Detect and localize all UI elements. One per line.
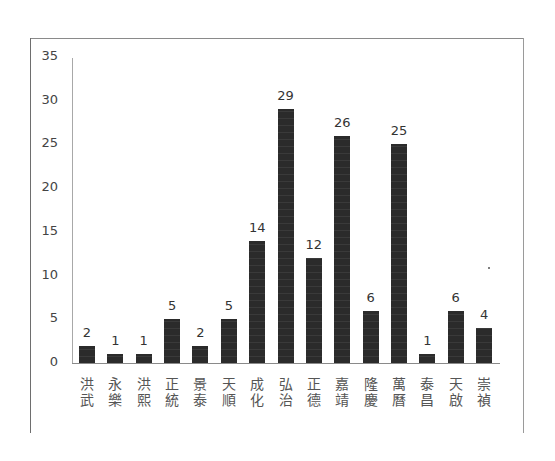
- bar: [334, 136, 350, 363]
- x-category-label-top: 天: [219, 377, 239, 392]
- x-category-label-bottom: 德: [304, 393, 324, 408]
- bar-value-label: 5: [214, 299, 244, 313]
- frame-right-border: [523, 38, 524, 433]
- stray-mark: [488, 267, 490, 269]
- bar: [221, 319, 237, 363]
- bar: [136, 354, 152, 363]
- bar: [107, 354, 123, 363]
- bar: [249, 241, 265, 363]
- bar: [164, 319, 180, 363]
- bar: [363, 311, 379, 363]
- x-category-label-top: 弘: [276, 377, 296, 392]
- bar-value-label: 25: [384, 124, 414, 138]
- x-category-label-top: 天: [446, 377, 466, 392]
- x-category-label-top: 景: [190, 377, 210, 392]
- y-tick-label: 25: [28, 136, 58, 150]
- bar: [192, 346, 208, 363]
- x-axis-line: [72, 363, 500, 364]
- x-category-label-bottom: 樂: [105, 393, 125, 408]
- bar-value-label: 14: [242, 221, 272, 235]
- bar-value-label: 12: [299, 238, 329, 252]
- y-axis-line: [72, 58, 73, 364]
- x-category-label-bottom: 慶: [361, 393, 381, 408]
- y-tick-label: 5: [28, 311, 58, 325]
- y-tick-label: 10: [28, 268, 58, 282]
- bar: [391, 144, 407, 363]
- x-category-label-top: 崇: [474, 377, 494, 392]
- x-category-label-top: 洪: [77, 377, 97, 392]
- bar-value-label: 1: [412, 334, 442, 348]
- x-category-label-bottom: 化: [247, 393, 267, 408]
- x-category-label-top: 嘉: [332, 377, 352, 392]
- x-category-label-bottom: 順: [219, 393, 239, 408]
- bar: [306, 258, 322, 363]
- bar-value-label: 6: [356, 291, 386, 305]
- x-category-label-top: 永: [105, 377, 125, 392]
- y-tick-label: 35: [28, 49, 58, 63]
- x-category-label-top: 正: [162, 377, 182, 392]
- x-category-label-bottom: 啟: [446, 393, 466, 408]
- bar-value-label: 29: [271, 89, 301, 103]
- x-category-label-bottom: 禎: [474, 393, 494, 408]
- bar-value-label: 6: [441, 291, 471, 305]
- bar-value-label: 5: [157, 299, 187, 313]
- frame-top-border: [30, 38, 524, 39]
- bar-value-label: 2: [185, 326, 215, 340]
- x-category-label-bottom: 統: [162, 393, 182, 408]
- bar: [79, 346, 95, 363]
- bar-value-label: 4: [469, 308, 499, 322]
- bar: [448, 311, 464, 363]
- x-category-label-top: 成: [247, 377, 267, 392]
- bar-value-label: 26: [327, 116, 357, 130]
- bar: [476, 328, 492, 363]
- x-category-label-top: 隆: [361, 377, 381, 392]
- bar-value-label: 2: [72, 326, 102, 340]
- x-category-label-bottom: 靖: [332, 393, 352, 408]
- x-category-label-bottom: 治: [276, 393, 296, 408]
- x-category-label-top: 泰: [417, 377, 437, 392]
- y-tick-label: 0: [28, 355, 58, 369]
- y-tick-label: 15: [28, 224, 58, 238]
- y-tick-label: 30: [28, 93, 58, 107]
- bar-value-label: 1: [100, 334, 130, 348]
- x-category-label-bottom: 熙: [134, 393, 154, 408]
- x-category-label-bottom: 泰: [190, 393, 210, 408]
- x-category-label-top: 正: [304, 377, 324, 392]
- y-tick-label: 20: [28, 180, 58, 194]
- x-category-label-top: 洪: [134, 377, 154, 392]
- bar: [278, 109, 294, 363]
- x-category-label-bottom: 武: [77, 393, 97, 408]
- x-category-label-top: 萬: [389, 377, 409, 392]
- x-category-label-bottom: 昌: [417, 393, 437, 408]
- x-category-label-bottom: 曆: [389, 393, 409, 408]
- bar-value-label: 1: [129, 334, 159, 348]
- bar: [419, 354, 435, 363]
